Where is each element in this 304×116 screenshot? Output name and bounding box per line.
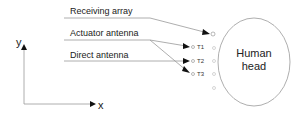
receiving-array-label: Receiving array (70, 7, 133, 16)
actuator-leader-t1 (150, 40, 186, 46)
direct-antenna-label: Direct antenna (70, 51, 129, 60)
head-label-line2: head (224, 60, 284, 73)
t1-circle (192, 46, 195, 49)
receiver-circle (211, 32, 215, 36)
array-element-2 (213, 60, 216, 63)
t2-arrow-icon (183, 58, 190, 64)
t3-circle (192, 73, 195, 76)
actuator-leader-t3 (150, 40, 187, 71)
x-axis-arrow-icon (90, 101, 96, 107)
t2-circle (192, 60, 195, 63)
t3-arrow-icon (182, 66, 190, 73)
receiving-array-leader (150, 18, 208, 33)
receiving-arrow-icon (202, 29, 210, 35)
t1-label: T1 (197, 44, 204, 50)
t2-label: T2 (197, 58, 204, 64)
y-axis-label: y (16, 37, 22, 48)
t3-label: T3 (197, 71, 204, 77)
human-head-label: Human head (224, 47, 284, 73)
x-axis-label: x (98, 100, 104, 111)
actuator-antenna-label: Actuator antenna (70, 29, 139, 38)
head-label-line1: Human (224, 47, 284, 60)
array-element-3 (213, 73, 216, 76)
t1-arrow-icon (183, 43, 190, 49)
array-element-1 (213, 47, 216, 50)
array-element-4 (213, 87, 216, 90)
